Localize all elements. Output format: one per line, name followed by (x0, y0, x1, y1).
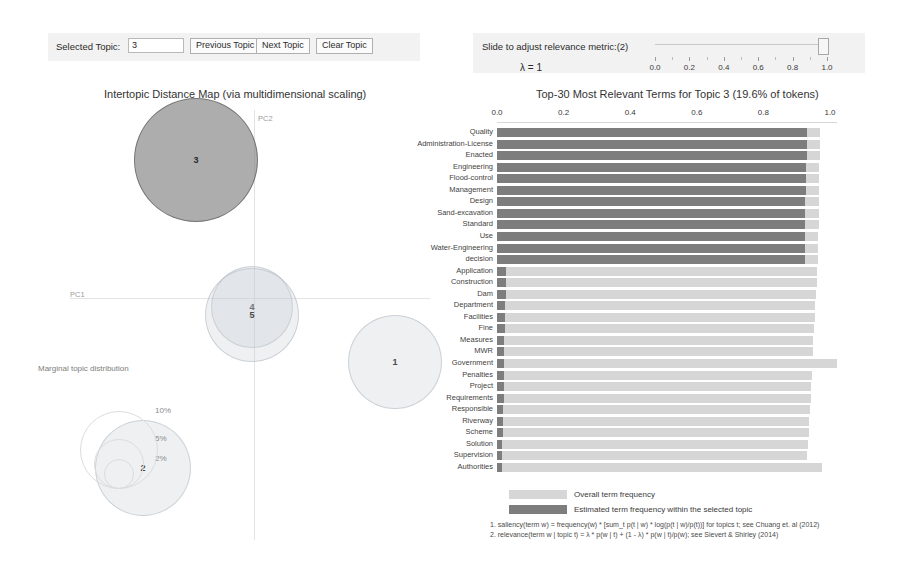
bar-overall-frequency (497, 417, 809, 426)
bar-topic-frequency (497, 417, 503, 426)
slider-tick-mark (827, 57, 828, 61)
slider-tick-mark-minor (741, 57, 742, 60)
slider-tick-label: 0.2 (684, 63, 695, 72)
slider-tick-mark (793, 57, 794, 61)
saliency-footnote: 1. saliency(term w) = frequency(w) * [su… (490, 521, 819, 528)
bar-topic-frequency (497, 140, 807, 149)
bar-topic-frequency (497, 451, 502, 460)
bar-topic-frequency (497, 463, 502, 472)
bar-term-label[interactable]: Dam (477, 289, 493, 298)
marginal-topic-distribution-label: Marginal topic distribution (38, 364, 129, 373)
bar-topic-frequency (497, 267, 506, 276)
bar-overall-frequency (497, 382, 811, 391)
slider-tick-label: 0.6 (753, 63, 764, 72)
bar-overall-frequency (497, 371, 812, 380)
bar-topic-frequency (497, 382, 504, 391)
pc2-axis-label: PC2 (258, 114, 273, 123)
slider-tick-mark (758, 57, 759, 61)
bar-xtick-label: 0.8 (758, 108, 769, 117)
bar-term-label[interactable]: Application (456, 266, 493, 275)
bar-term-label[interactable]: Enacted (465, 150, 493, 159)
relevance-slider-caption: Slide to adjust relevance metric:(2) (482, 41, 628, 52)
bar-topic-frequency (497, 347, 504, 356)
bar-topic-frequency (497, 197, 805, 206)
bar-overall-frequency (497, 163, 819, 172)
relevance-footnote: 2. relevance(term w | topic t) = λ * p(w… (490, 531, 778, 538)
bar-topic-frequency (497, 301, 505, 310)
bar-overall-frequency (497, 174, 819, 183)
bar-term-label[interactable]: Measures (460, 335, 493, 344)
bar-term-label[interactable]: Fine (478, 323, 493, 332)
bar-overall-frequency (497, 290, 816, 299)
bar-topic-frequency (497, 313, 505, 322)
bar-term-label[interactable]: Penalties (462, 370, 493, 379)
bar-overall-frequency (497, 128, 820, 137)
lambda-value-label: λ = 1 (520, 62, 542, 73)
relevance-slider-handle[interactable] (818, 38, 829, 55)
previous-topic-button[interactable]: Previous Topic (190, 38, 260, 54)
intertopic-map-title: Intertopic Distance Map (via multidimens… (104, 88, 366, 100)
bar-xtick-label: 0.2 (558, 108, 569, 117)
slider-tick-mark (655, 57, 656, 61)
bar-topic-frequency (497, 290, 506, 299)
bar-topic-frequency (497, 428, 503, 437)
legend-label-overall: Overall term frequency (574, 490, 655, 499)
bar-overall-frequency (497, 359, 837, 368)
bar-term-label[interactable]: MWR (474, 346, 493, 355)
bar-topic-frequency (497, 359, 504, 368)
bar-topic-frequency (497, 174, 806, 183)
slider-tick-label: 0.8 (787, 63, 798, 72)
bar-topic-frequency (497, 244, 805, 253)
bar-xtick-label: 0.0 (491, 108, 502, 117)
bar-overall-frequency (497, 347, 813, 356)
slider-tick-mark-minor (775, 57, 776, 60)
bar-term-label[interactable]: Project (470, 381, 493, 390)
bar-overall-frequency (497, 151, 820, 160)
bar-topic-frequency (497, 255, 805, 264)
bar-overall-frequency (497, 394, 811, 403)
relevance-slider-track[interactable] (655, 44, 827, 49)
bar-term-label[interactable]: decision (465, 254, 493, 263)
topic-bubble-label: 3 (193, 155, 198, 165)
next-topic-button[interactable]: Next Topic (256, 38, 310, 54)
slider-tick-mark (689, 57, 690, 61)
selected-topic-input[interactable] (128, 38, 184, 53)
top-terms-title: Top-30 Most Relevant Terms for Topic 3 (… (536, 88, 819, 100)
bar-overall-frequency (497, 324, 814, 333)
bar-topic-frequency (497, 209, 805, 218)
slider-tick-label: 0.0 (649, 63, 660, 72)
slider-tick-mark-minor (672, 57, 673, 60)
bar-term-label[interactable]: Authorities (458, 462, 493, 471)
bar-term-label[interactable]: Design (470, 196, 493, 205)
bar-term-label[interactable]: Scheme (465, 427, 493, 436)
bar-term-label[interactable]: Quality (470, 127, 493, 136)
marginal-size-circle (80, 411, 158, 489)
bar-term-label[interactable]: Standard (463, 219, 493, 228)
bar-overall-frequency (497, 209, 819, 218)
bar-overall-frequency (497, 313, 815, 322)
topic-bubble-label: 5 (249, 310, 254, 320)
bar-overall-frequency (497, 232, 818, 241)
slider-tick-mark (724, 57, 725, 61)
bar-overall-frequency (497, 451, 807, 460)
clear-topic-button[interactable]: Clear Topic (316, 38, 373, 54)
bar-topic-frequency (497, 440, 502, 449)
bar-term-label[interactable]: Use (480, 231, 493, 240)
legend-label-within-topic: Estimated term frequency within the sele… (574, 505, 752, 514)
selected-topic-label: Selected Topic: (56, 41, 120, 52)
bar-term-label[interactable]: Facilities (464, 312, 493, 321)
pc1-axis-label: PC1 (70, 290, 85, 299)
bar-topic-frequency (497, 186, 806, 195)
bar-xtick-label: 0.6 (691, 108, 702, 117)
relevance-slider-ticks: 0.00.20.40.60.81.0 (655, 57, 835, 73)
bar-overall-frequency (497, 336, 813, 345)
bar-term-label[interactable]: Riverway (462, 416, 493, 425)
bar-chart-axis (497, 122, 837, 123)
bar-overall-frequency (497, 244, 818, 253)
intertopic-distance-map[interactable]: PC1 PC2 34512 (40, 100, 460, 570)
bar-overall-frequency (497, 255, 818, 264)
bar-topic-frequency (497, 336, 504, 345)
bar-term-label[interactable]: Solution (466, 439, 493, 448)
topic-bubble-label: 1 (392, 357, 397, 367)
bar-overall-frequency (497, 463, 822, 472)
